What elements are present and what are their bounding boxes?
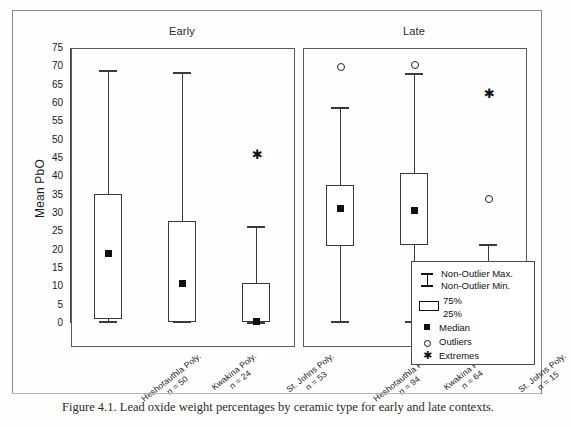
panel-title-late: Late (303, 25, 525, 37)
y-tick-label: 15 (41, 262, 63, 273)
figure-frame: Mean PbO051015202530354045505560657075Ea… (12, 10, 542, 394)
box-whisker-cap-min (331, 321, 349, 323)
box-whisker-cap-max (247, 226, 265, 228)
whisker-stem-icon (427, 273, 429, 286)
legend-label-median: Median (439, 322, 470, 333)
y-tick-label: 40 (41, 170, 63, 181)
box-whisker-cap-max (479, 244, 497, 246)
y-tick-label: 45 (41, 152, 63, 163)
box-median-marker (411, 207, 418, 214)
box-whisker-cap-max (405, 73, 423, 75)
figure-caption: Figure 4.1. Lead oxide weight percentage… (0, 400, 556, 415)
legend-label-extremes: Extremes (439, 350, 479, 361)
panel-title-early: Early (71, 25, 293, 37)
box-whisker-cap-min (99, 321, 117, 323)
y-tick-label: 55 (41, 115, 63, 126)
y-tick-label: 10 (41, 280, 63, 291)
y-tick-label: 0 (41, 317, 63, 328)
box-median-marker (179, 280, 186, 287)
legend-label-nonoutlier-min: Non-Outlier Min. (441, 280, 510, 291)
legend-label-25: 25% (443, 308, 462, 319)
box-iqr (326, 185, 354, 246)
plot-area: Mean PbO051015202530354045505560657075Ea… (13, 11, 541, 393)
legend-label-outliers: Outliers (439, 336, 472, 347)
y-tick-label: 60 (41, 97, 63, 108)
legend-label-75: 75% (443, 295, 462, 306)
y-tick-label: 25 (41, 225, 63, 236)
y-tick-label: 35 (41, 189, 63, 200)
box-whisker-cap-max (331, 107, 349, 109)
x-axis-label: St. Johns Poly.n = 53 (284, 351, 342, 402)
filled-square-icon (424, 324, 430, 330)
box-iqr (168, 221, 196, 321)
box-whisker-cap-max (173, 72, 191, 74)
box-icon (419, 301, 439, 311)
outlier-marker (337, 63, 345, 71)
asterisk-icon: ✱ (423, 353, 432, 358)
y-tick-label: 20 (41, 244, 63, 255)
y-tick-label: 70 (41, 60, 63, 71)
box-iqr (242, 283, 270, 322)
box-median-marker (253, 318, 260, 325)
y-tick-label: 50 (41, 134, 63, 145)
legend-label-nonoutlier-max: Non-Outlier Max. (441, 268, 513, 279)
box-whisker-cap-min (173, 321, 191, 323)
extreme-marker: ✱ (252, 152, 263, 158)
box-median-marker (105, 250, 112, 257)
y-tick-label: 5 (41, 299, 63, 310)
open-circle-icon (424, 340, 431, 347)
y-tick-label: 65 (41, 79, 63, 90)
y-tick-label: 75 (41, 42, 63, 53)
box-median-marker (337, 205, 344, 212)
caption-divider (12, 393, 540, 394)
extreme-marker: ✱ (484, 91, 495, 97)
y-tick-label: 30 (41, 207, 63, 218)
box-whisker-cap-max (99, 70, 117, 72)
